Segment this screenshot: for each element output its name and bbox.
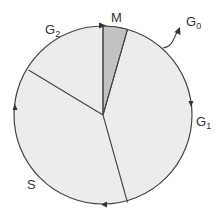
g0-arrow-icon bbox=[175, 27, 181, 35]
label-g1: G1 bbox=[196, 114, 211, 131]
g0-exit-path bbox=[163, 32, 177, 48]
cell-cycle-diagram: M G0 G1 S G2 bbox=[0, 0, 216, 213]
label-m: M bbox=[111, 10, 122, 25]
label-s: S bbox=[27, 177, 36, 192]
label-g2: G2 bbox=[45, 22, 60, 39]
label-g0: G0 bbox=[186, 14, 201, 31]
